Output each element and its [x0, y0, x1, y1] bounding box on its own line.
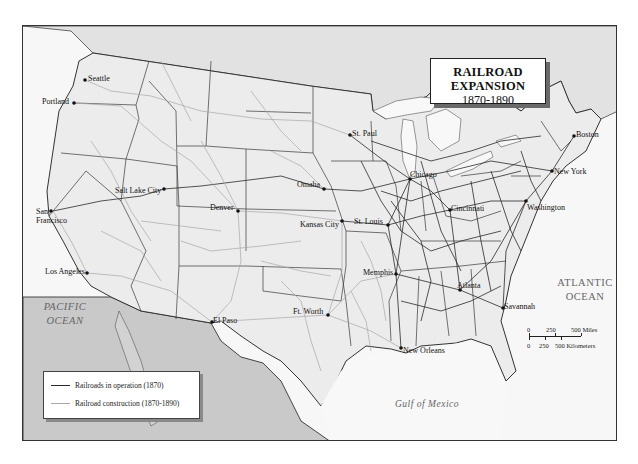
- map-subtitle: 1870-1890: [431, 93, 545, 107]
- city-label-san-francisco: SanFrancisco: [36, 207, 67, 225]
- scale-km-0: 0: [527, 342, 530, 349]
- scale-km-250: 250: [539, 342, 549, 349]
- city-label-portland: Portland: [42, 97, 69, 106]
- city-label-st-louis: St. Louis: [354, 217, 383, 226]
- legend-label: Railroads in operation (1870): [75, 381, 164, 390]
- atlantic-line1: ATLANTIC: [545, 276, 625, 290]
- scale-tick: [555, 333, 556, 336]
- scale-tick: [581, 333, 582, 336]
- scale-bar: 0 250 500 Miles 0 250 500 Kilometers: [524, 326, 624, 356]
- city-label-savannah: Savannah: [504, 302, 535, 311]
- pacific-line2: OCEAN: [30, 314, 100, 328]
- city-label-omaha: Omaha: [297, 180, 320, 189]
- city-label-cincinnati: Cincinnati: [451, 204, 484, 213]
- scale-tick: [561, 336, 562, 340]
- city-label-seattle: Seattle: [88, 74, 110, 83]
- scale-mi-0: 0: [527, 326, 530, 333]
- city-label-boston: Boston: [576, 130, 599, 139]
- scale-mi-250: 250: [546, 326, 556, 333]
- city-label-atlanta: Atlanta: [457, 281, 481, 290]
- map-legend: Railroads in operation (1870) Railroad c…: [43, 371, 200, 419]
- city-label-new-orleans: New Orleans: [403, 346, 445, 355]
- city-label-washington: Washington: [527, 203, 565, 212]
- city-label-denver: Denver: [210, 203, 234, 212]
- legend-swatch-light: [51, 403, 70, 404]
- map-title: RAILROAD EXPANSION: [431, 65, 545, 93]
- pacific-line1: PACIFIC: [30, 300, 100, 314]
- legend-item-1870: Railroads in operation (1870): [51, 381, 164, 390]
- city-label-ft-worth: Ft. Worth: [293, 307, 323, 316]
- city-label-chicago: Chicago: [410, 170, 437, 179]
- city-label-salt-lake-city: Salt Lake City: [115, 186, 161, 195]
- city-label-memphis: Memphis: [363, 268, 393, 277]
- scale-mi-500: 500 Miles: [571, 326, 597, 333]
- legend-item-1870-1890: Railroad construction (1870-1890): [51, 399, 179, 408]
- city-label-new-york: New York: [554, 167, 586, 176]
- gulf-of-mexico-label: Gulf of Mexico: [372, 397, 482, 411]
- city-label-kansas-city: Kansas City: [300, 220, 339, 229]
- scale-line: [529, 336, 581, 337]
- city-label-los-angeles: Los Angeles: [45, 267, 85, 276]
- scale-tick: [545, 336, 546, 340]
- city-label-el-paso: El Paso: [213, 316, 237, 325]
- scale-km-500: 500 Kilometers: [555, 342, 595, 349]
- city-label-st-paul: St. Paul: [352, 129, 377, 138]
- map-title-box: RAILROAD EXPANSION 1870-1890: [430, 58, 546, 104]
- scale-tick: [529, 333, 530, 340]
- pacific-ocean-label: PACIFIC OCEAN: [30, 300, 100, 328]
- atlantic-line2: OCEAN: [545, 290, 625, 304]
- atlantic-ocean-label: ATLANTIC OCEAN: [545, 276, 625, 304]
- legend-swatch-dark: [51, 385, 70, 386]
- legend-label: Railroad construction (1870-1890): [75, 399, 179, 408]
